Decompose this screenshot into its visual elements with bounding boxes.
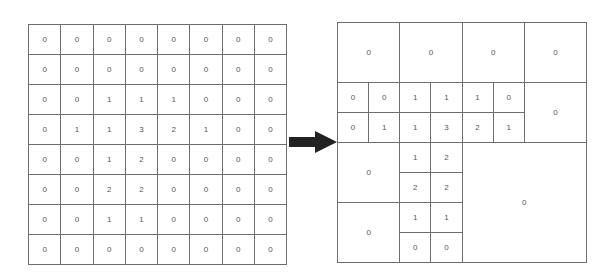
matrix-cell: 0 — [157, 174, 190, 205]
matrix-cell: 1 — [157, 84, 190, 115]
matrix-cell: 1 — [93, 114, 126, 145]
matrix-cell: 0 — [93, 24, 126, 55]
matrix-cell: 0 — [125, 24, 158, 55]
matrix-cell: 0 — [60, 144, 93, 175]
quadtree-block: 2 — [399, 172, 431, 203]
matrix-cell: 0 — [254, 234, 287, 265]
matrix-cell: 0 — [93, 234, 126, 265]
matrix-cell: 0 — [28, 54, 61, 85]
matrix-cell: 0 — [222, 174, 255, 205]
matrix-cell: 2 — [125, 174, 158, 205]
quadtree-block: 0 — [462, 142, 588, 263]
quadtree-block: 0 — [337, 112, 369, 143]
matrix-cell: 1 — [125, 84, 158, 115]
matrix-cell: 0 — [157, 204, 190, 235]
matrix-cell: 0 — [60, 204, 93, 235]
matrix-cell: 2 — [125, 144, 158, 175]
matrix-cell: 1 — [189, 114, 222, 145]
quadtree-block: 0 — [524, 22, 587, 83]
matrix-cell: 0 — [189, 204, 222, 235]
matrix-cell: 0 — [157, 144, 190, 175]
quadtree-block: 0 — [524, 82, 587, 143]
matrix-cell: 0 — [222, 144, 255, 175]
quadtree-block: 0 — [337, 82, 369, 113]
matrix-cell: 0 — [189, 174, 222, 205]
matrix-cell: 0 — [222, 204, 255, 235]
quadtree-block: 0 — [337, 142, 400, 203]
quadtree-block: 1 — [399, 142, 431, 173]
matrix-cell: 0 — [189, 24, 222, 55]
matrix-cell: 0 — [222, 234, 255, 265]
quadtree-block: 2 — [430, 142, 462, 173]
quadtree-decomposition-grid: 0000001110001132101222001100 — [337, 22, 586, 262]
matrix-cell: 0 — [125, 54, 158, 85]
matrix-cell: 0 — [222, 54, 255, 85]
matrix-cell: 0 — [28, 84, 61, 115]
quadtree-block: 1 — [493, 112, 525, 143]
matrix-cell: 0 — [125, 234, 158, 265]
matrix-cell: 0 — [28, 204, 61, 235]
matrix-cell: 0 — [254, 24, 287, 55]
matrix-cell: 1 — [93, 204, 126, 235]
quadtree-block: 1 — [399, 82, 431, 113]
matrix-cell: 0 — [28, 234, 61, 265]
matrix-cell: 0 — [254, 174, 287, 205]
quadtree-block: 1 — [399, 202, 431, 233]
right-arrow-icon — [289, 131, 337, 153]
quadtree-block: 0 — [462, 22, 525, 83]
matrix-cell: 0 — [222, 84, 255, 115]
quadtree-block: 2 — [430, 172, 462, 203]
quadtree-block: 0 — [337, 202, 400, 263]
matrix-cell: 0 — [93, 54, 126, 85]
matrix-cell: 0 — [222, 24, 255, 55]
matrix-cell: 0 — [254, 204, 287, 235]
quadtree-block: 0 — [399, 22, 462, 83]
matrix-cell: 1 — [93, 84, 126, 115]
matrix-cell: 0 — [189, 234, 222, 265]
quadtree-block: 1 — [430, 82, 462, 113]
matrix-cell: 0 — [157, 24, 190, 55]
quadtree-block: 3 — [430, 112, 462, 143]
matrix-cell: 2 — [157, 114, 190, 145]
matrix-cell: 0 — [28, 144, 61, 175]
matrix-cell: 1 — [93, 144, 126, 175]
matrix-cell: 3 — [125, 114, 158, 145]
matrix-cell: 0 — [157, 234, 190, 265]
matrix-cell: 0 — [60, 174, 93, 205]
matrix-cell: 2 — [93, 174, 126, 205]
matrix-cell: 1 — [125, 204, 158, 235]
matrix-cell: 0 — [222, 114, 255, 145]
quadtree-block: 0 — [493, 82, 525, 113]
matrix-cell: 0 — [60, 84, 93, 115]
quadtree-block: 1 — [462, 82, 494, 113]
matrix-cell: 0 — [157, 54, 190, 85]
matrix-cell: 0 — [28, 114, 61, 145]
matrix-cell: 1 — [60, 114, 93, 145]
quadtree-block: 0 — [337, 22, 400, 83]
original-matrix-grid: 0000000000000000001110000113210000120000… — [28, 24, 286, 264]
quadtree-block: 1 — [368, 112, 400, 143]
matrix-cell: 0 — [254, 144, 287, 175]
matrix-cell: 0 — [28, 24, 61, 55]
quadtree-block: 0 — [430, 232, 462, 263]
quadtree-block: 1 — [399, 112, 431, 143]
matrix-cell: 0 — [189, 144, 222, 175]
quadtree-block: 0 — [399, 232, 431, 263]
matrix-cell: 0 — [60, 24, 93, 55]
matrix-cell: 0 — [254, 84, 287, 115]
quadtree-block: 2 — [462, 112, 494, 143]
matrix-cell: 0 — [60, 234, 93, 265]
matrix-cell: 0 — [189, 54, 222, 85]
quadtree-block: 0 — [368, 82, 400, 113]
matrix-cell: 0 — [254, 54, 287, 85]
matrix-cell: 0 — [254, 114, 287, 145]
matrix-cell: 0 — [28, 174, 61, 205]
matrix-cell: 0 — [60, 54, 93, 85]
matrix-cell: 0 — [189, 84, 222, 115]
quadtree-block: 1 — [430, 202, 462, 233]
